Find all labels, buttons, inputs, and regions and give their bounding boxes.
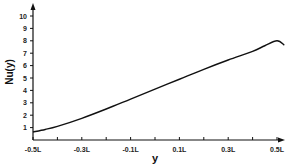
y-tick-label: 2 bbox=[23, 112, 27, 119]
x-tick-label: 0.5L bbox=[270, 146, 285, 153]
y-tick-label: 4 bbox=[23, 87, 27, 94]
x-axis-label: y bbox=[152, 152, 159, 164]
x-axis: -0.5L-0.3L-0.1L0.1L0.3L0.5L bbox=[25, 137, 285, 153]
x-tick-label: -0.3L bbox=[74, 146, 91, 153]
y-tick-label: 7 bbox=[23, 50, 27, 57]
x-tick-label: 0.3L bbox=[221, 146, 236, 153]
x-tick-label: -0.1L bbox=[122, 146, 139, 153]
y-tick-label: 10 bbox=[19, 13, 27, 20]
x-axis-arrow-icon bbox=[278, 138, 285, 143]
y-tick-label: 5 bbox=[23, 75, 27, 82]
x-tick-label: -0.5L bbox=[25, 146, 42, 153]
x-tick-label: 0.1L bbox=[172, 146, 187, 153]
y-axis-arrow-icon bbox=[31, 3, 36, 10]
y-tick-label: 6 bbox=[23, 62, 27, 69]
y-axis: 12345678910 bbox=[19, 3, 35, 140]
y-axis-label: Nu(y) bbox=[4, 59, 15, 85]
nu-curve bbox=[33, 41, 284, 132]
y-tick-label: 1 bbox=[23, 124, 27, 131]
y-tick-label: 3 bbox=[23, 99, 27, 106]
y-tick-label: 8 bbox=[23, 37, 27, 44]
chart: 12345678910 -0.5L-0.3L-0.1L0.1L0.3L0.5L … bbox=[0, 0, 287, 166]
y-tick-label: 9 bbox=[23, 25, 27, 32]
